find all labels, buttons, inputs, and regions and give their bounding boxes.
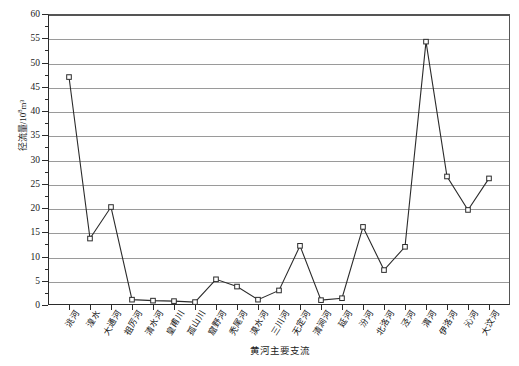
x-tick (384, 305, 385, 310)
x-tick-label: 沁河 (463, 309, 480, 329)
x-tick (300, 305, 301, 310)
x-tick (258, 305, 259, 310)
gridline (49, 185, 509, 186)
x-tick-label: 三川河 (270, 309, 292, 337)
x-tick (237, 305, 238, 310)
x-tick-label: 秃尾河 (228, 309, 250, 337)
x-tick-label: 皇甫川 (165, 309, 187, 337)
x-tick-label: 孤山川 (186, 309, 208, 337)
x-tick-label: 清水河 (144, 309, 166, 337)
y-tick-label: 55 (2, 34, 40, 44)
y-tick-label: 60 (2, 10, 40, 20)
x-tick-label: 伊洛河 (438, 309, 460, 337)
x-tick-label: 无定河 (291, 309, 313, 337)
gridline (49, 88, 509, 89)
x-tick (363, 305, 364, 310)
gridline (49, 233, 509, 234)
gridline (49, 161, 509, 162)
y-tick-label: 25 (2, 179, 40, 189)
x-tick (447, 305, 448, 310)
x-tick (342, 305, 343, 310)
x-tick-label: 渭河 (421, 309, 438, 329)
gridline (49, 112, 509, 113)
gridline (49, 39, 509, 40)
plot-area (48, 14, 510, 305)
y-tick-label: 35 (2, 131, 40, 141)
x-tick-label: 窟野河 (207, 309, 229, 337)
y-tick-label: 30 (2, 155, 40, 165)
x-tick (321, 305, 322, 310)
x-tick (195, 305, 196, 310)
x-tick-label: 北洛河 (375, 309, 397, 337)
x-tick-label: 湟水 (85, 309, 102, 329)
y-tick-label: 15 (2, 228, 40, 238)
x-tick-label: 泾河 (400, 309, 417, 329)
x-tick (174, 305, 175, 310)
gridline (49, 258, 509, 259)
y-tick-label: 45 (2, 82, 40, 92)
y-tick-label: 0 (2, 301, 40, 311)
x-tick (426, 305, 427, 310)
x-tick-label: 漠水河 (249, 309, 271, 337)
x-tick (279, 305, 280, 310)
y-tick-label: 5 (2, 276, 40, 286)
gridline (49, 64, 509, 65)
x-tick-label: 祖厉河 (123, 309, 145, 337)
x-axis-title: 黄河主要支流 (0, 347, 519, 357)
y-tick-major (42, 305, 48, 306)
x-tick-label: 汾河 (358, 309, 375, 329)
y-tick-label: 10 (2, 252, 40, 262)
x-tick (69, 305, 70, 310)
gridline (49, 209, 509, 210)
x-tick-label: 大通河 (102, 309, 124, 337)
x-tick (153, 305, 154, 310)
x-tick (90, 305, 91, 310)
x-tick-label: 大汶河 (480, 309, 502, 337)
x-tick-label: 清涧河 (312, 309, 334, 337)
x-tick-label: 延河 (337, 309, 354, 329)
x-tick (111, 305, 112, 310)
x-tick (405, 305, 406, 310)
y-tick-label: 40 (2, 107, 40, 117)
x-tick (132, 305, 133, 310)
gridline (49, 15, 509, 16)
gridline (49, 136, 509, 137)
gridline (49, 282, 509, 283)
x-tick (489, 305, 490, 310)
x-tick (216, 305, 217, 310)
y-tick-label: 20 (2, 204, 40, 214)
y-tick-label: 50 (2, 58, 40, 68)
x-tick-label: 洮河 (64, 309, 81, 329)
runoff-line-chart: 径流量/108m³ 051015202530354045505560 洮河湟水大… (0, 0, 519, 366)
x-tick (468, 305, 469, 310)
